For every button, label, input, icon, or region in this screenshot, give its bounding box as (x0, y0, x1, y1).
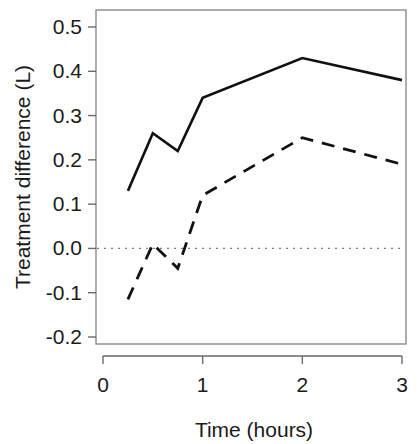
y-axis-ticks (88, 27, 96, 337)
y-tick-label: 0.4 (53, 59, 83, 82)
y-tick-label: -0.1 (46, 281, 82, 304)
chart-canvas: 0.50.40.30.20.10.0-0.1-0.2 0123 Treatmen… (0, 0, 419, 444)
treatment-difference-chart: 0.50.40.30.20.10.0-0.1-0.2 0123 Treatmen… (0, 0, 419, 444)
x-axis-tick-labels: 0123 (97, 373, 408, 396)
y-tick-label: 0.1 (53, 192, 82, 215)
solid-series-line (128, 58, 402, 191)
x-tick-label: 2 (296, 373, 308, 396)
x-tick-label: 0 (97, 373, 109, 396)
y-tick-label: -0.2 (46, 325, 82, 348)
x-tick-label: 1 (197, 373, 209, 396)
y-axis-tick-labels: 0.50.40.30.20.10.0-0.1-0.2 (46, 15, 82, 348)
y-axis-title: Treatment difference (L) (11, 65, 34, 289)
x-tick-label: 3 (396, 373, 408, 396)
plot-frame (96, 10, 406, 344)
y-tick-label: 0.2 (53, 148, 82, 171)
x-axis-ticks (103, 356, 402, 364)
x-axis-title: Time (hours) (195, 418, 313, 441)
y-tick-label: 0.5 (53, 15, 82, 38)
dashed-series-line (128, 138, 402, 300)
y-tick-label: 0.3 (53, 104, 82, 127)
y-tick-label: 0.0 (53, 236, 82, 259)
